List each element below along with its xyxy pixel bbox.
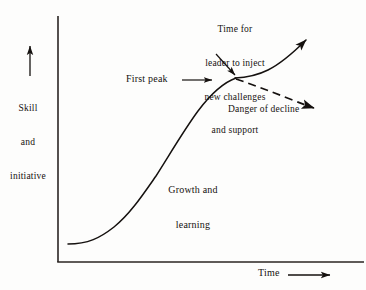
axis-y-label-line-3: initiative	[0, 171, 56, 182]
leader-callout-line-2: leader to inject	[168, 58, 302, 69]
axis-y-label-line-1: Skill	[0, 103, 56, 114]
learning-curve-figure: ) --> Skill and initiative Time First pe…	[0, 0, 366, 290]
axis-x-label: Time	[258, 267, 280, 279]
axis-y-label: Skill and initiative	[0, 81, 56, 204]
first-peak-label: First peak	[126, 73, 168, 85]
leader-callout-line-1: Time for	[168, 24, 302, 35]
leader-callout-line-3: new challenges	[168, 92, 302, 103]
growth-and-learning-label: Growth and learning	[148, 160, 238, 254]
danger-of-decline-label: Danger of decline	[228, 104, 299, 115]
growth-label-line-1: Growth and	[148, 184, 238, 196]
axis-y-label-line-2: and	[0, 137, 56, 148]
leader-callout-line-4: and support	[168, 125, 302, 136]
growth-label-line-2: learning	[148, 219, 238, 231]
leader-callout-label: Time for leader to inject new challenges…	[168, 2, 302, 159]
